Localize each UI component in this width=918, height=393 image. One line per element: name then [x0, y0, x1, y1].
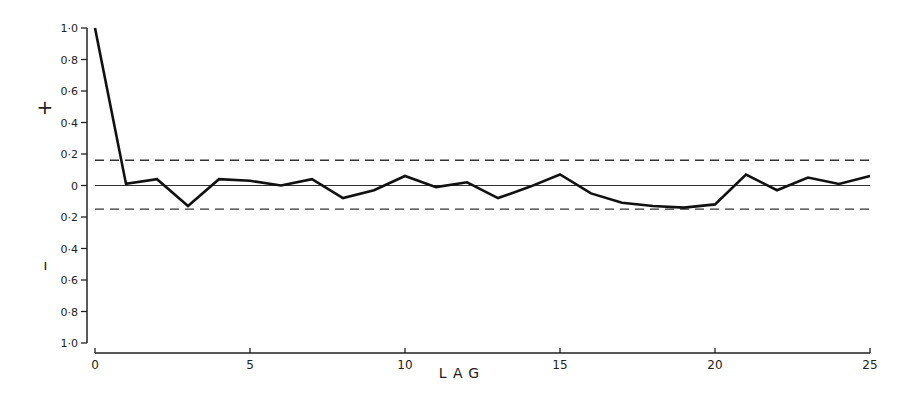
y-tick-label: 0 — [71, 180, 78, 193]
y-tick-label: 0·8 — [61, 54, 79, 67]
y-tick-label: 0·6 — [61, 85, 79, 98]
x-tick-label: 15 — [552, 358, 567, 372]
y-tick-label: 0·8 — [61, 306, 79, 319]
x-tick-label: 5 — [246, 358, 254, 372]
x-tick-label: 0 — [91, 358, 99, 372]
y-tick-label: 0·2 — [61, 148, 79, 161]
y-tick-label: 0·6 — [61, 274, 79, 287]
y-tick-label: 0·2 — [61, 211, 79, 224]
x-tick-label: 25 — [862, 358, 877, 372]
y-tick-label: 1·0 — [61, 22, 79, 35]
y-tick-label: 1·0 — [61, 337, 79, 350]
x-tick-label: 10 — [397, 358, 412, 372]
x-axis-label: LAG — [439, 365, 485, 381]
y-axis: 1·00·80·60·40·200·20·40·60·81·0 — [61, 22, 88, 350]
y-tick-label: 0·4 — [61, 243, 79, 256]
y-tick-label: 0·4 — [61, 117, 79, 130]
autocorrelation-chart: 1·00·80·60·40·200·20·40·60·81·0 05101520… — [0, 0, 918, 393]
y-axis-label-negative: – — [35, 261, 59, 271]
acf-series-line — [95, 28, 870, 208]
x-tick-label: 20 — [707, 358, 722, 372]
y-axis-label-positive: + — [37, 95, 54, 119]
